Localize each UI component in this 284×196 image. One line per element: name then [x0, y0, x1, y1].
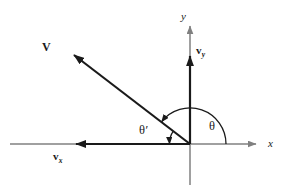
x-axis-label: x: [268, 138, 273, 149]
vector-vx-label: vx: [53, 151, 62, 162]
theta-prime-arc: [169, 131, 173, 144]
vector-vy-label: vy: [196, 45, 205, 56]
theta-arc: [162, 108, 226, 144]
prime-glyph: ′: [145, 123, 148, 137]
y-axis-label: y: [181, 11, 186, 22]
vx-base: v: [53, 150, 59, 162]
vector-decomposition-figure: y x V vy vx θ θ′: [0, 0, 284, 196]
vy-base: v: [196, 44, 202, 56]
figure-canvas: [0, 0, 284, 196]
angle-arcs: [162, 108, 226, 144]
theta-label: θ: [209, 120, 215, 133]
vy-subscript: y: [202, 50, 205, 59]
vx-subscript: x: [59, 156, 63, 165]
theta-glyph: θ: [209, 119, 215, 133]
vector-V-arrow: [74, 55, 190, 144]
theta-prime-label: θ′: [139, 124, 148, 137]
vector-V-label: V: [42, 41, 51, 53]
vector-arrows: [74, 55, 190, 144]
